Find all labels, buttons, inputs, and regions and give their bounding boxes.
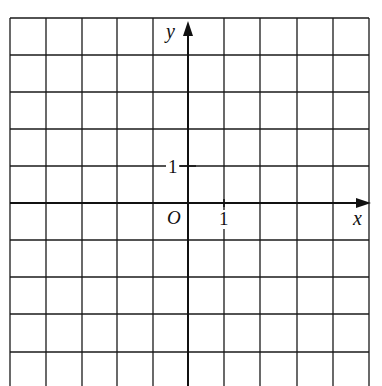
y-axis-label: y <box>164 20 175 43</box>
y-axis-arrow-icon <box>183 21 193 36</box>
x-axis <box>10 198 371 208</box>
coordinate-grid: y x O 1 1 <box>0 0 382 386</box>
origin-label: O <box>167 207 181 228</box>
y-tick-label: 1 <box>168 156 178 177</box>
x-tick-label: 1 <box>219 208 229 229</box>
x-axis-label: x <box>352 207 362 229</box>
